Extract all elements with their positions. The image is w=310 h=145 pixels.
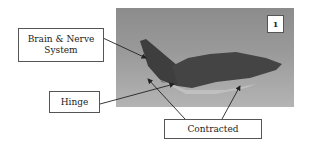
label-brain-nerve-system: Brain & Nerve System	[18, 28, 104, 62]
label-contracted: Contracted	[164, 119, 262, 139]
panel-number-badge: 1	[267, 15, 284, 33]
label-hinge: Hinge	[49, 91, 100, 113]
specimen-photo: 1	[116, 8, 294, 107]
